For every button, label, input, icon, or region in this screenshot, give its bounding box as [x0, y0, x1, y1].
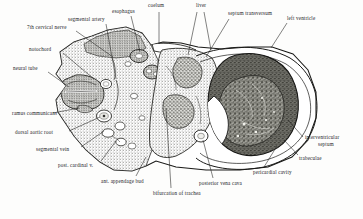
label-interventricular-septum-l2: septum	[318, 142, 334, 148]
esophagus-structure	[130, 50, 148, 63]
label-posterior-vena-cava: posterior vena cava	[199, 181, 242, 187]
leader-liver-b	[204, 12, 211, 50]
label-septum-transversum: septum transversum	[228, 11, 272, 17]
notochord-structure	[100, 79, 111, 88]
label-dorsal-aortic-root: dorsal aortic root	[15, 130, 53, 136]
label-left-ventricle: left ventricle	[287, 16, 315, 22]
label-post-cardinal-v: post. cardinal v.	[58, 163, 93, 169]
label-esophagus: esophagus	[112, 9, 135, 15]
label-segmental-artery: segmental artery	[68, 17, 105, 23]
label-segmental-vein: segmental vein	[36, 147, 69, 153]
liver-lobe-upper	[173, 57, 202, 88]
label-bifurcation-of-trachea: bifurcation of trachea	[153, 191, 201, 197]
anatomical-figure: coelumliveresophagusseptum transversumle…	[0, 0, 363, 219]
label-neural-tube: neural tube	[13, 66, 38, 72]
label-seventh-cervical-nerve: 7th cervical nerve	[27, 25, 67, 31]
posterior-vena-cava-structure	[194, 130, 208, 142]
label-interventricular-septum-l1: interventricular	[305, 135, 339, 141]
label-ramus-communicans: ramus communicans	[12, 111, 57, 117]
left-ventricle-structure	[206, 54, 298, 156]
label-ant-appendage-bud: ant. appendage bud	[101, 179, 144, 185]
label-liver: liver	[196, 3, 206, 9]
label-notochord: notochord	[29, 47, 51, 53]
leader-left-ventricle	[271, 23, 287, 48]
label-coelum: coelum	[148, 3, 164, 9]
label-trabeculae: trabeculae	[299, 156, 322, 162]
label-pericardial-cavity: pericardial cavity	[253, 170, 292, 176]
neural-tube-structure	[61, 75, 104, 110]
